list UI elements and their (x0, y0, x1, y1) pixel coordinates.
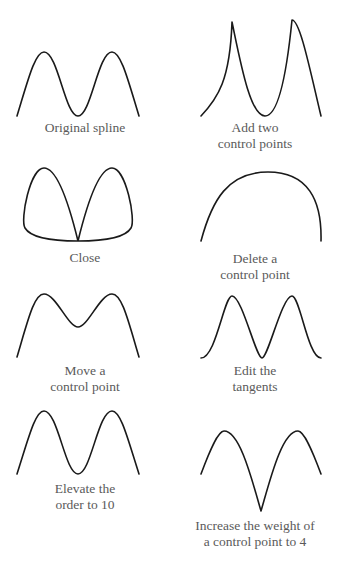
caption-line: Add two (170, 120, 340, 136)
close-curve (24, 168, 133, 241)
caption-line: order to 10 (0, 497, 170, 513)
caption-line: control points (170, 136, 340, 152)
caption-line: Move a (0, 363, 170, 379)
caption-elevate: Elevate the order to 10 (0, 481, 170, 513)
caption-line: Delete a (170, 251, 340, 267)
caption-delete: Delete a control point (170, 251, 340, 283)
elevate-curve (17, 411, 139, 474)
tangents-curve (201, 296, 321, 358)
move-curve (17, 294, 139, 357)
caption-original: Original spline (0, 120, 170, 136)
caption-line: a control point to 4 (170, 534, 340, 550)
caption-line: Elevate the (0, 481, 170, 497)
delete-curve (201, 172, 321, 241)
caption-line: control point (170, 267, 340, 283)
caption-line: Close (0, 250, 170, 266)
caption-weight: Increase the weight of a control point t… (170, 518, 340, 550)
caption-add: Add two control points (170, 120, 340, 152)
caption-line: Original spline (0, 120, 170, 136)
caption-move: Move a control point (0, 363, 170, 395)
caption-tangents: Edit the tangents (170, 363, 340, 395)
caption-line: tangents (170, 379, 340, 395)
original-spline-curve (17, 52, 139, 116)
caption-line: control point (0, 379, 170, 395)
caption-line: Increase the weight of (170, 518, 340, 534)
caption-line: Edit the (170, 363, 340, 379)
add-points-curve (201, 20, 321, 116)
weight-curve (201, 431, 321, 511)
caption-close: Close (0, 250, 170, 266)
